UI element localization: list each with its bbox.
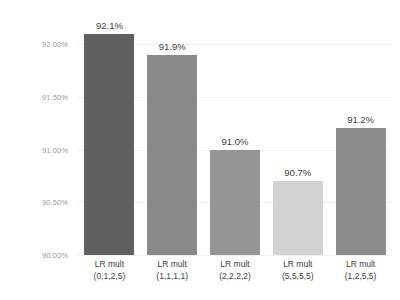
page-artifact: · · · · [22, 277, 51, 284]
y-axis-tick-label: 91.00% [42, 145, 68, 154]
x-axis-category-label: LR mult(0,1,2,5) [76, 259, 142, 282]
y-axis-tick-label: 90.00% [42, 251, 68, 260]
bar-value-label: 90.7% [284, 167, 311, 178]
category-label-line2: (1,1,1,1) [139, 271, 205, 283]
category-label-line1: LR mult [139, 259, 205, 271]
category-label-line1: LR mult [202, 259, 268, 271]
bar-value-label: 91.2% [347, 114, 374, 125]
y-axis-tick-label: 92.00% [42, 40, 68, 49]
category-label-line2: (5,5,5,5) [265, 271, 331, 283]
bar-value-label: 92.1% [96, 20, 123, 31]
y-axis-tick-label: 91.50% [42, 92, 68, 101]
x-axis-category-label: LR mult(2,2,2,2) [202, 259, 268, 282]
bar-chart: 90.00%90.50%91.00%91.50%92.00% 92.1%91.9… [0, 0, 400, 300]
category-label-line2: (1,2,5,5) [328, 271, 394, 283]
category-label-line1: LR mult [328, 259, 394, 271]
category-label-line1: LR mult [265, 259, 331, 271]
y-axis-tick-label: 90.50% [42, 198, 68, 207]
bar-value-label: 91.0% [222, 136, 249, 147]
bar[interactable] [147, 55, 197, 255]
bar[interactable] [84, 34, 134, 255]
bar-value-label: 91.9% [159, 41, 186, 52]
bar-series: 92.1%91.9%91.0%90.7%91.2% [78, 0, 392, 300]
bar[interactable] [273, 181, 323, 255]
y-axis: 90.00%90.50%91.00%91.50%92.00% [0, 0, 78, 300]
x-axis-category-label: LR mult(1,2,5,5) [328, 259, 394, 282]
bar[interactable] [210, 150, 260, 255]
category-label-line1: LR mult [76, 259, 142, 271]
x-axis-category-label: LR mult(5,5,5,5) [265, 259, 331, 282]
category-label-line2: (0,1,2,5) [76, 271, 142, 283]
x-axis-category-label: LR mult(1,1,1,1) [139, 259, 205, 282]
bar[interactable] [336, 128, 386, 255]
category-label-line2: (2,2,2,2) [202, 271, 268, 283]
